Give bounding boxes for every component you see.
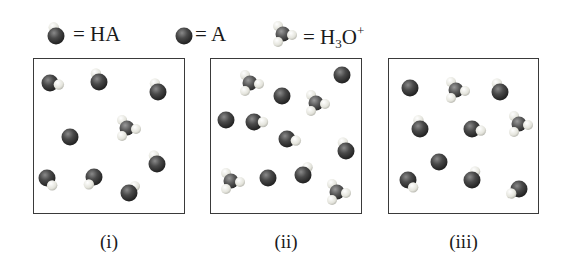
hydrogen-atom bbox=[117, 131, 127, 141]
hydronium-ion bbox=[117, 115, 141, 141]
ha-molecule bbox=[246, 114, 269, 131]
hydrogen-atom bbox=[306, 106, 316, 116]
ha-molecule bbox=[464, 121, 487, 138]
hydrogen-atom bbox=[327, 195, 337, 205]
hydrogen-atom bbox=[131, 124, 141, 134]
hydronium-ion bbox=[446, 77, 470, 103]
ha-molecule bbox=[464, 166, 481, 188]
hydronium-ion bbox=[221, 168, 245, 194]
a-atom bbox=[402, 80, 419, 97]
a-atom bbox=[150, 84, 167, 101]
a-anion bbox=[402, 80, 419, 97]
ha-molecule bbox=[506, 181, 527, 199]
a-atom bbox=[121, 185, 138, 202]
a-atom bbox=[412, 121, 429, 138]
molecule-layer bbox=[0, 0, 563, 270]
hydrogen-atom bbox=[446, 93, 456, 103]
ha-molecule bbox=[39, 170, 58, 191]
hydrogen-atom bbox=[221, 184, 231, 194]
ha-molecule bbox=[492, 78, 509, 100]
hydrogen-atom bbox=[506, 188, 516, 198]
hydrogen-atom bbox=[287, 30, 297, 40]
a-atom bbox=[176, 28, 193, 45]
hydrogen-atom bbox=[258, 117, 268, 127]
hydrogen-atom bbox=[320, 99, 330, 109]
a-atom bbox=[218, 112, 235, 129]
hydronium-ion bbox=[306, 90, 330, 116]
hydronium-ion bbox=[240, 70, 264, 96]
a-anion bbox=[176, 28, 193, 45]
hydrogen-atom bbox=[84, 179, 94, 189]
hydrogen-atom bbox=[460, 86, 470, 96]
ha-molecule bbox=[295, 162, 313, 183]
hydrogen-atom bbox=[235, 177, 245, 187]
ha-molecule bbox=[91, 68, 108, 90]
ha-molecule bbox=[84, 169, 103, 190]
a-atom bbox=[48, 28, 65, 45]
hydrogen-atom bbox=[523, 120, 533, 130]
hydronium-ion bbox=[273, 21, 297, 47]
a-atom bbox=[260, 170, 277, 187]
a-anion bbox=[218, 112, 235, 129]
hydrogen-atom bbox=[240, 86, 250, 96]
a-anion bbox=[274, 88, 291, 105]
hydrogen-atom bbox=[254, 79, 264, 89]
hydrogen-atom bbox=[291, 135, 301, 145]
a-atom bbox=[492, 84, 509, 101]
ha-molecule bbox=[121, 181, 140, 202]
a-atom bbox=[464, 172, 481, 189]
hydrogen-atom bbox=[273, 37, 283, 47]
a-atom bbox=[149, 156, 166, 173]
ha-molecule bbox=[149, 150, 166, 172]
a-anion bbox=[334, 67, 351, 84]
ha-molecule bbox=[279, 131, 302, 148]
a-anion bbox=[260, 170, 277, 187]
a-atom bbox=[274, 88, 291, 105]
hydrogen-atom bbox=[476, 125, 486, 135]
hydronium-ion bbox=[509, 111, 533, 137]
hydrogen-atom bbox=[47, 180, 57, 190]
ha-molecule bbox=[338, 137, 355, 159]
hydrogen-atom bbox=[54, 79, 64, 89]
ha-molecule bbox=[42, 75, 65, 92]
ha-molecule bbox=[412, 115, 429, 138]
a-anion bbox=[431, 154, 448, 171]
hydronium-ion bbox=[327, 179, 351, 205]
ha-molecule bbox=[48, 22, 65, 44]
a-anion bbox=[62, 129, 79, 146]
hydrogen-atom bbox=[408, 182, 418, 192]
ha-molecule bbox=[400, 172, 419, 193]
a-atom bbox=[338, 143, 355, 160]
a-atom bbox=[62, 129, 79, 146]
a-atom bbox=[334, 67, 351, 84]
hydrogen-atom bbox=[341, 188, 351, 198]
ha-molecule bbox=[150, 78, 167, 100]
acid-dissociation-diagram: = HA = A = H3O+ (i) (ii) (iii) bbox=[0, 0, 563, 270]
a-atom bbox=[295, 167, 312, 184]
a-atom bbox=[431, 154, 448, 171]
hydrogen-atom bbox=[509, 127, 519, 137]
a-atom bbox=[91, 74, 108, 91]
